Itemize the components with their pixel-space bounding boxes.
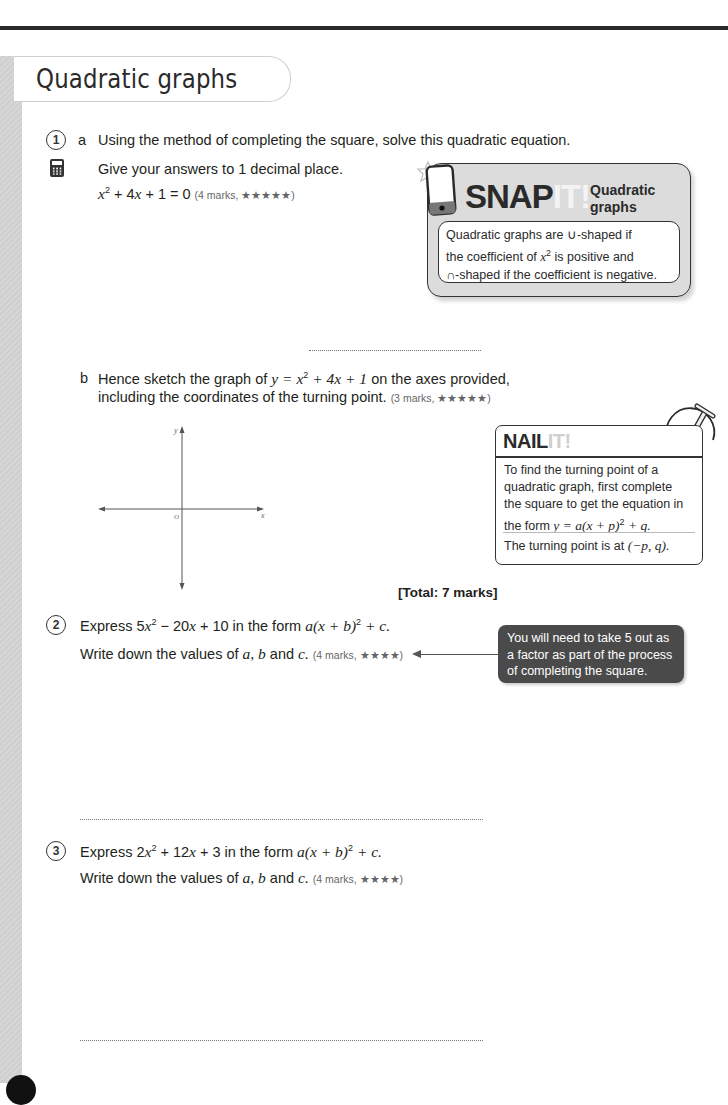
calculator-icon xyxy=(50,159,64,177)
question-number-1: 1 xyxy=(46,130,66,150)
nail-it-text: To find the turning point of a quadratic… xyxy=(504,462,683,535)
eq-end: + 1 = 0 xyxy=(141,186,190,202)
q1b-line2: including the coordinates of the turning… xyxy=(98,389,387,405)
q3-instruction-line2: Write down the values of a, b and c. (4 … xyxy=(80,869,403,887)
hint-line2: a factor as part of the process xyxy=(507,647,672,664)
q2-instruction-line2: Write down the values of a, b and c. (4 … xyxy=(80,645,403,663)
q1b-suffix: on the axes provided, xyxy=(367,371,510,387)
hint-line3: of completing the square. xyxy=(507,663,672,680)
q2-instruction: Express 5x2 − 20x + 10 in the form a(x +… xyxy=(80,617,390,635)
q1a-decimal-instruction: Give your answers to 1 decimal place. xyxy=(98,161,343,177)
snap-it-word: IT! xyxy=(553,178,590,215)
q2-form: a(x + b) xyxy=(305,617,356,634)
snap-line2-suffix: is positive and xyxy=(551,250,634,264)
nail-line4-end: + q. xyxy=(625,518,651,533)
snap-subtitle-line2: graphs xyxy=(590,199,655,216)
snap-it-subtitle: Quadraticgraphs xyxy=(590,182,655,216)
page-number-badge xyxy=(6,1075,36,1105)
x-axis-label: x xyxy=(260,511,265,520)
nail-word: NAIL xyxy=(503,430,548,452)
q2-x2: x xyxy=(189,617,196,634)
q3-form-end: + c. xyxy=(353,843,382,860)
q1b-instruction: Hence sketch the graph of y = x2 + 4x + … xyxy=(98,370,510,388)
nail-line4-prefix: the form xyxy=(504,519,553,533)
q2-form-end: + c. xyxy=(361,617,390,634)
top-rule xyxy=(0,26,728,30)
y-axis-label: y xyxy=(173,426,178,435)
part-label-1a: a xyxy=(78,132,86,148)
q3-line2-vars: a, b xyxy=(243,869,266,886)
q1b-prefix: Hence sketch the graph of xyxy=(98,371,271,387)
snap-subtitle-line1: Quadratic xyxy=(590,182,655,199)
answer-line-2[interactable] xyxy=(80,819,483,820)
q3-line2-prefix: Write down the values of xyxy=(80,870,243,886)
side-strip xyxy=(0,56,22,1083)
nail-line1: To find the turning point of a xyxy=(504,462,683,479)
answer-line-3[interactable] xyxy=(80,1040,483,1041)
q3-marks: (4 marks, ★★★★) xyxy=(313,873,403,885)
nail-it-separator xyxy=(503,532,695,533)
hint-arrow-icon xyxy=(412,650,421,658)
q3-rest2: + 3 in the form xyxy=(196,844,297,860)
question-number-3: 3 xyxy=(46,841,66,861)
nail-line5-math: (−p, q). xyxy=(628,538,670,553)
q3-line2-and: and xyxy=(266,870,298,886)
nail-it-word: IT! xyxy=(548,430,571,452)
hint-text: You will need to take 5 out as a factor … xyxy=(507,630,672,680)
answer-line-1a[interactable] xyxy=(309,350,481,351)
snap-it-heading: SNAPIT! xyxy=(465,178,590,216)
q3-prefix: Express 2 xyxy=(80,844,144,860)
page-title: Quadratic graphs xyxy=(36,64,237,94)
hint-line1: You will need to take 5 out as xyxy=(507,630,672,647)
snap-it-text: Quadratic graphs are ∪-shaped if the coe… xyxy=(446,226,657,284)
q1a-equation: x2 + 4x + 1 = 0 (4 marks, ★★★★★) xyxy=(98,185,295,203)
nail-line5-prefix: The turning point is at xyxy=(504,539,628,553)
nail-turning-point: The turning point is at (−p, q). xyxy=(504,538,669,554)
nail-line3: the square to get the equation in xyxy=(504,496,683,513)
q2-rest: − 20 xyxy=(156,618,189,634)
q2-marks: (4 marks, ★★★★) xyxy=(313,649,403,661)
snap-text-line2: the coefficient of x2 is positive and xyxy=(446,244,657,266)
nail-it-divider xyxy=(495,456,703,458)
nail-line4-math: y = a(x + p) xyxy=(553,518,619,533)
snap-word: SNAP xyxy=(465,178,553,215)
q2-line2-prefix: Write down the values of xyxy=(80,646,243,662)
phone-icon xyxy=(416,156,462,224)
q3-line2-c: c. xyxy=(298,869,309,886)
q2-line2-and: and xyxy=(266,646,298,662)
snap-text-line3: ∩-shaped if the coefficient is negative. xyxy=(446,266,657,284)
hint-arrow-line xyxy=(418,654,498,655)
q3-instruction: Express 2x2 + 12x + 3 in the form a(x + … xyxy=(80,843,382,861)
part-label-1b: b xyxy=(80,370,88,386)
q3-x2: x xyxy=(189,843,196,860)
q3-form: a(x + b) xyxy=(297,843,348,860)
nail-line2: quadratic graph, first complete xyxy=(504,479,683,496)
snap-line2-prefix: the coefficient of xyxy=(446,250,540,264)
eq-term: + 4 xyxy=(110,186,135,202)
q1-total-marks: [Total: 7 marks] xyxy=(398,585,498,600)
eq-x: x xyxy=(98,185,105,202)
q1b-math2: + 4x + 1 xyxy=(308,370,367,387)
q2-line2-c: c. xyxy=(298,645,309,662)
q1a-instruction: Using the method of completing the squar… xyxy=(98,132,570,148)
q2-rest2: + 10 in the form xyxy=(196,618,305,634)
origin-label: O xyxy=(174,513,179,521)
question-number-2: 2 xyxy=(46,615,66,635)
snap-text-line1: Quadratic graphs are ∪-shaped if xyxy=(446,226,657,244)
q3-rest: + 12 xyxy=(156,844,189,860)
blank-axes[interactable]: y x O xyxy=(90,420,280,590)
nail-it-heading: NAILIT! xyxy=(503,430,571,453)
q1a-marks: (4 marks, ★★★★★) xyxy=(195,189,295,201)
q1b-math: y = x xyxy=(271,370,303,387)
q2-prefix: Express 5 xyxy=(80,618,144,634)
q1b-marks: (3 marks, ★★★★★) xyxy=(391,392,491,404)
q1b-instruction-line2: including the coordinates of the turning… xyxy=(98,389,491,405)
q2-line2-vars: a, b xyxy=(243,645,266,662)
